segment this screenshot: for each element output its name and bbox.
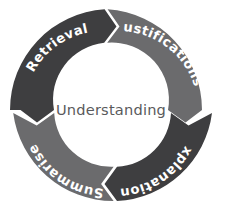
- cycle-diagram-svg: Retrieval Justifications Explanations Su…: [0, 0, 225, 221]
- cycle-diagram: Retrieval Justifications Explanations Su…: [0, 0, 225, 221]
- center-label: Understanding: [56, 101, 166, 118]
